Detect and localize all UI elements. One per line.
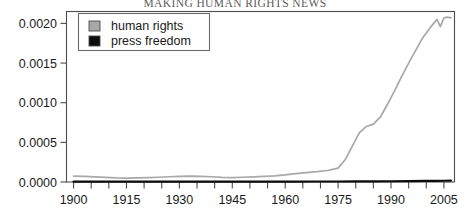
legend-label-press-freedom: press freedom bbox=[111, 34, 191, 48]
chart-figure: MAKING HUMAN RIGHTS NEWS 0.00000.00050.0… bbox=[0, 0, 470, 222]
x-tick-label: 1900 bbox=[60, 193, 88, 207]
x-tick-label: 1990 bbox=[377, 193, 405, 207]
y-tick-label: 0.0020 bbox=[19, 17, 57, 31]
x-tick-label: 1960 bbox=[271, 193, 299, 207]
chart-title: MAKING HUMAN RIGHTS NEWS bbox=[143, 0, 326, 9]
legend-label-human-rights: human rights bbox=[111, 19, 183, 33]
x-tick-label: 2005 bbox=[430, 193, 458, 207]
y-tick-label: 0.0005 bbox=[19, 136, 57, 150]
chart-legend: human rights press freedom bbox=[79, 14, 210, 51]
figure-background bbox=[0, 0, 470, 222]
x-tick-label: 1930 bbox=[165, 193, 193, 207]
series-line-press-freedom bbox=[74, 181, 451, 182]
y-tick-label: 0.0015 bbox=[19, 57, 57, 71]
x-tick-label: 1975 bbox=[324, 193, 352, 207]
x-tick-label: 1915 bbox=[113, 193, 141, 207]
legend-swatch-press-freedom bbox=[89, 36, 100, 46]
legend-swatch-human-rights bbox=[89, 21, 100, 31]
y-tick-label: 0.0000 bbox=[19, 176, 57, 190]
x-tick-label: 1945 bbox=[218, 193, 246, 207]
y-tick-label: 0.0010 bbox=[19, 96, 57, 110]
